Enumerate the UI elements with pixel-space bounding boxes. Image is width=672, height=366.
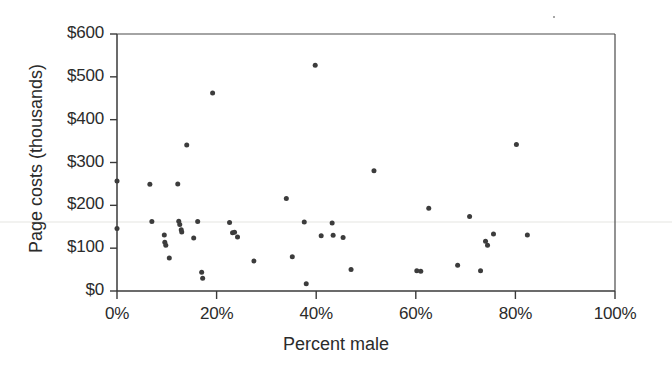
- data-point: [478, 268, 483, 273]
- data-point: [235, 235, 240, 240]
- data-point: [302, 220, 307, 225]
- x-tick-label: 80%: [470, 304, 560, 324]
- x-tick-label: 20%: [172, 304, 262, 324]
- x-tick-label: 40%: [271, 304, 361, 324]
- data-point: [177, 222, 182, 227]
- data-point: [115, 226, 120, 231]
- data-point: [167, 256, 172, 261]
- data-point: [179, 229, 184, 234]
- data-point: [319, 233, 324, 238]
- data-point: [349, 267, 354, 272]
- data-point: [162, 232, 167, 237]
- data-point: [227, 220, 232, 225]
- x-tick-label: 60%: [371, 304, 461, 324]
- data-point: [467, 214, 472, 219]
- data-point: [525, 232, 530, 237]
- scatter-plot-figure: $600$500$400$300$200$100$0 0%20%40%60%80…: [0, 0, 672, 366]
- data-point: [200, 276, 205, 281]
- data-point: [175, 181, 180, 186]
- x-tick-label: 100%: [570, 304, 660, 324]
- data-point: [191, 235, 196, 240]
- data-point: [455, 263, 460, 268]
- data-point: [304, 281, 309, 286]
- data-point: [284, 196, 289, 201]
- data-point: [184, 142, 189, 147]
- data-point: [313, 63, 318, 68]
- data-point: [371, 168, 376, 173]
- y-axis-title: Page costs (thousands): [26, 19, 47, 299]
- data-point: [418, 269, 423, 274]
- data-point: [199, 270, 204, 275]
- data-point: [232, 230, 237, 235]
- data-point: [210, 91, 215, 96]
- data-point: [115, 178, 120, 183]
- data-point: [251, 259, 256, 264]
- data-point: [331, 233, 336, 238]
- data-point: [341, 235, 346, 240]
- data-point: [149, 219, 154, 224]
- data-point: [491, 232, 496, 237]
- x-tick-label: 0%: [72, 304, 162, 324]
- x-axis-title: Percent male: [0, 334, 672, 355]
- data-point: [485, 243, 490, 248]
- axis-ticks: [110, 34, 615, 299]
- data-point: [163, 243, 168, 248]
- data-point: [330, 220, 335, 225]
- data-point: [147, 182, 152, 187]
- data-point: [290, 254, 295, 259]
- data-point: [514, 142, 519, 147]
- plot-frame: [117, 34, 615, 291]
- data-point: [426, 206, 431, 211]
- data-points: [115, 63, 530, 286]
- data-point: [195, 219, 200, 224]
